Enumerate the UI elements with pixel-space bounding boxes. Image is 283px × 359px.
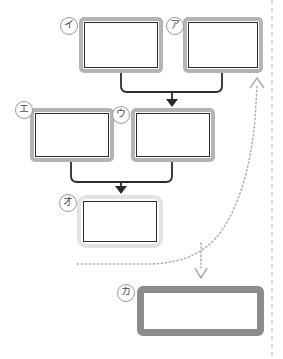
node-box-e[interactable] xyxy=(30,108,114,162)
node-box-ka-inner xyxy=(144,293,257,329)
node-box-i-inner xyxy=(84,22,158,68)
node-label-ka: カ xyxy=(117,284,135,302)
connector-o-to-ka xyxy=(195,243,207,278)
node-box-e-inner xyxy=(35,113,109,157)
flowchart-diagram: イ ア エ ウ オ カ xyxy=(0,0,283,359)
node-box-ka[interactable] xyxy=(137,286,264,336)
connector-a-to-u xyxy=(172,73,222,92)
node-box-o-inner xyxy=(83,201,157,242)
node-box-a[interactable] xyxy=(183,17,263,73)
node-box-a-inner xyxy=(188,22,258,68)
node-label-a: ア xyxy=(166,17,184,35)
connector-i-to-u xyxy=(121,73,172,92)
node-box-u-inner xyxy=(136,113,210,157)
node-label-i: イ xyxy=(60,17,78,35)
arrow-into-u xyxy=(166,92,178,107)
node-label-o: オ xyxy=(59,194,77,212)
node-box-o[interactable] xyxy=(77,195,163,248)
node-label-u: ウ xyxy=(112,106,130,124)
connector-e-to-o xyxy=(71,162,121,182)
connector-u-to-o xyxy=(121,162,172,182)
node-box-u[interactable] xyxy=(131,108,215,162)
node-label-e: エ xyxy=(15,101,33,119)
node-box-i[interactable] xyxy=(79,17,163,73)
arrow-into-o xyxy=(115,182,127,194)
